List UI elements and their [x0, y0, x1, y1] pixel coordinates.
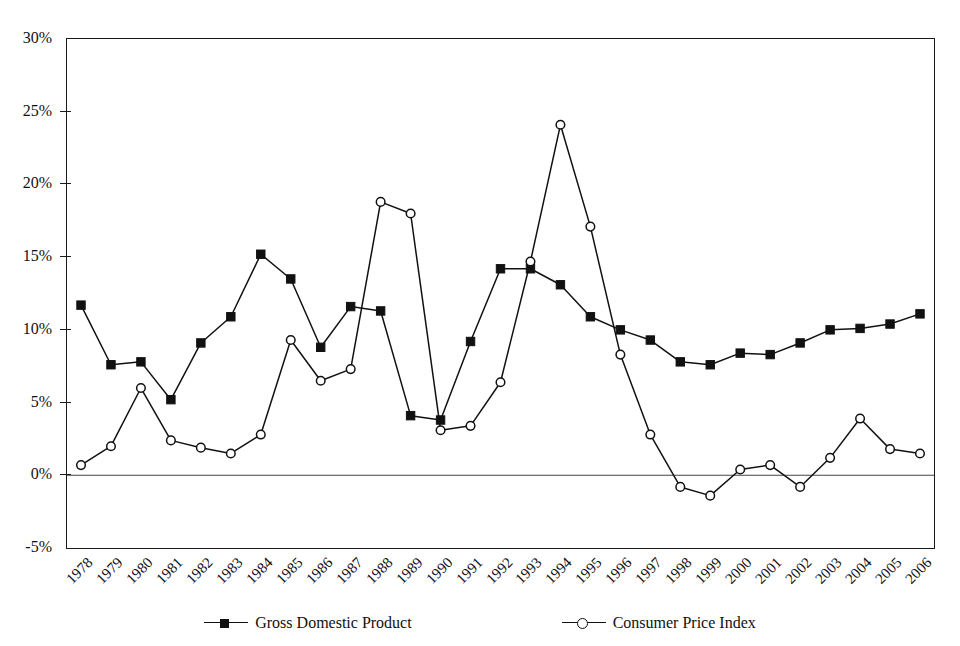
x-axis: 1978197919801981198219831984198519861987… [0, 0, 960, 646]
y-tick-mark [60, 183, 71, 184]
open-circle-icon [562, 616, 606, 630]
chart-page: -5%0%5%10%15%20%25%30% 19781979198019811… [0, 0, 960, 646]
y-tick-mark [60, 329, 71, 330]
y-tick-mark [60, 111, 71, 112]
y-tick-mark [60, 256, 71, 257]
legend-label-gross-domestic-product: Gross Domestic Product [255, 614, 411, 632]
y-tick-mark [60, 474, 71, 475]
chart-legend: Gross Domestic Product Consumer Price In… [0, 608, 960, 638]
legend-item-consumer-price-index: Consumer Price Index [562, 614, 756, 632]
filled-square-icon [204, 616, 248, 630]
legend-item-gross-domestic-product: Gross Domestic Product [204, 614, 411, 632]
legend-label-consumer-price-index: Consumer Price Index [613, 614, 756, 632]
y-tick-mark [60, 402, 71, 403]
